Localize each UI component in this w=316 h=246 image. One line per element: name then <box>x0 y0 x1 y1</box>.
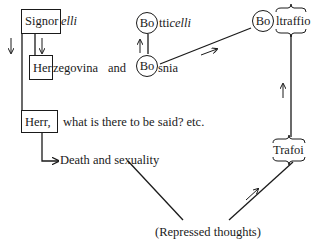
botticelli-rest-text: tticelli <box>159 17 191 30</box>
signorelli-boxed-text: Signor <box>25 15 58 28</box>
death-and-sexuality-label: Death and sexuality <box>60 154 159 167</box>
botticelli-rest-plain: tti <box>159 16 169 30</box>
signorelli-rest-text: elli <box>61 15 77 28</box>
herr-boxed-text: Herr, <box>25 116 51 129</box>
boltraffio-rest-text: ltraffio <box>276 15 310 28</box>
botticelli-rest-italic: celli <box>169 16 191 30</box>
trafoi-label: Trafoi <box>273 144 304 157</box>
bosnia-circle: Bo <box>136 55 158 77</box>
bosnia-circled-text: Bo <box>140 59 155 74</box>
botticelli-circled-text: Bo <box>140 16 155 31</box>
repressed-thoughts-label: (Repressed thoughts) <box>155 226 261 239</box>
herzegovina-rest-text: zegovina <box>53 62 98 75</box>
botticelli-circle: Bo <box>136 12 158 34</box>
boltraffio-circle: Bo <box>252 10 274 32</box>
and-text: and <box>108 62 126 75</box>
herzegovina-boxed-text: Her <box>33 62 52 75</box>
boltraffio-circled-text: Bo <box>256 14 271 29</box>
bosnia-rest-text: snia <box>158 62 178 75</box>
herr-rest-text: what is there to be said? etc. <box>63 116 204 129</box>
